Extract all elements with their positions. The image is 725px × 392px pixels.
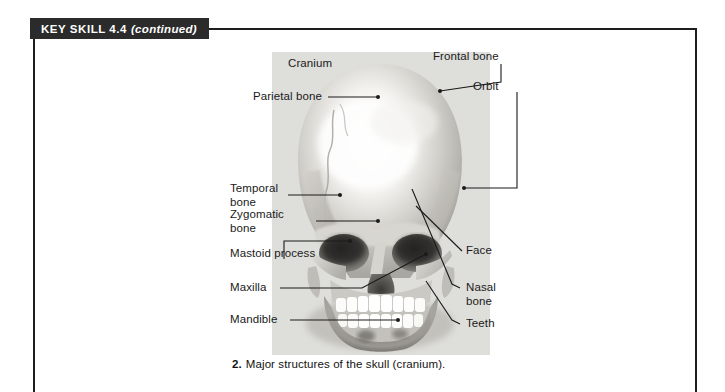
label-parietal-bone: Parietal bone	[202, 90, 322, 104]
page-root: KEY SKILL 4.4 (continued)	[0, 0, 725, 392]
label-temporal-bone: Temporal bone	[230, 182, 278, 209]
caption-number: 2.	[232, 358, 242, 370]
key-skill-banner: KEY SKILL 4.4 (continued)	[30, 18, 209, 39]
label-face: Face	[466, 244, 492, 258]
banner-continued-label: (continued)	[131, 23, 197, 35]
label-mandible: Mandible	[230, 313, 277, 327]
figure-caption: 2.Major structures of the skull (cranium…	[232, 358, 445, 370]
frame-right-rule	[695, 28, 697, 392]
caption-text: Major structures of the skull (cranium).	[246, 358, 446, 370]
label-cranium: Cranium	[288, 57, 332, 71]
label-zygomatic-bone: Zygomatic bone	[230, 208, 284, 235]
label-frontal-bone: Frontal bone	[433, 50, 499, 64]
label-nasal-bone: Nasal bone	[466, 281, 496, 308]
label-orbit: Orbit	[473, 80, 498, 94]
banner-title: KEY SKILL 4.4	[41, 23, 127, 35]
label-teeth: Teeth	[466, 317, 495, 331]
figure-skull: Cranium Frontal bone Orbit Parietal bone…	[230, 45, 530, 385]
label-maxilla: Maxilla	[230, 281, 267, 295]
label-mastoid-process: Mastoid process	[230, 247, 315, 261]
frame-left-rule	[33, 28, 35, 392]
